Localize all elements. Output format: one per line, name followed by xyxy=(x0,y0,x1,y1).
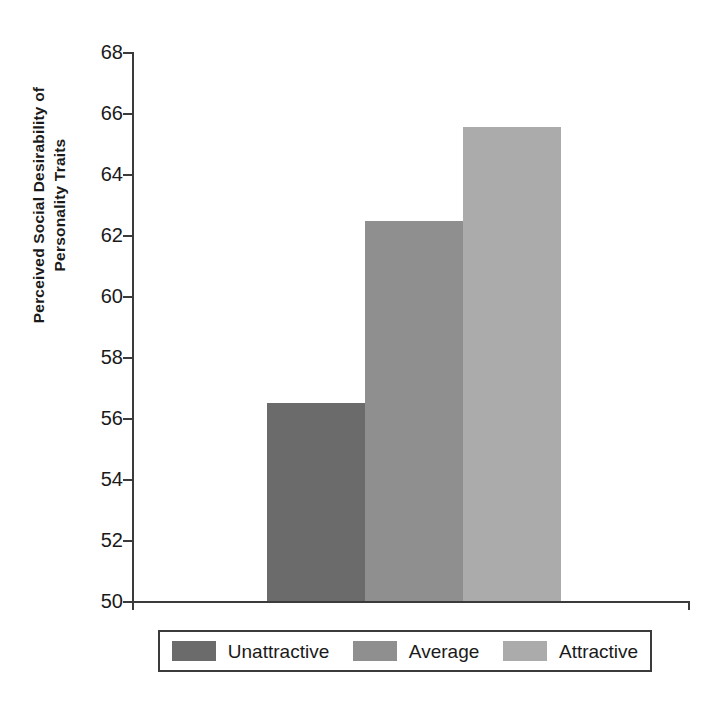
y-tick-mark xyxy=(123,601,132,603)
y-axis-label-line1: Perceived Social Desirability of xyxy=(30,87,47,323)
y-tick-mark xyxy=(123,113,132,115)
bar-attractive xyxy=(463,127,561,601)
y-tick-mark xyxy=(123,296,132,298)
y-tick-label: 60 xyxy=(101,286,123,306)
y-tick-label: 56 xyxy=(101,408,123,428)
y-tick-label: 52 xyxy=(101,530,123,550)
y-tick-mark xyxy=(123,479,132,481)
y-tick-mark xyxy=(123,174,132,176)
legend-label: Unattractive xyxy=(228,642,329,661)
plot-area: 50525456586062646668 xyxy=(132,52,690,601)
y-tick-label: 68 xyxy=(101,42,123,62)
legend-swatch-icon xyxy=(503,641,547,661)
y-tick-mark xyxy=(123,235,132,237)
legend-swatch-icon xyxy=(172,641,216,661)
chart-legend: UnattractiveAverageAttractive xyxy=(158,630,652,672)
legend-item-average: Average xyxy=(353,641,479,661)
y-tick-mark xyxy=(123,540,132,542)
y-tick-mark xyxy=(123,357,132,359)
x-axis-left-cap xyxy=(132,601,134,610)
y-tick-label: 62 xyxy=(101,225,123,245)
y-axis-label: Perceived Social Desirability of Persona… xyxy=(20,40,80,370)
legend-label: Average xyxy=(409,642,479,661)
legend-item-unattractive: Unattractive xyxy=(172,641,329,661)
x-axis-right-cap xyxy=(688,601,690,610)
x-axis-line xyxy=(132,601,690,603)
y-tick-label: 54 xyxy=(101,469,123,489)
y-tick-mark xyxy=(123,52,132,54)
bar-unattractive xyxy=(267,403,365,601)
legend-swatch-icon xyxy=(353,641,397,661)
bar-series xyxy=(132,52,690,601)
y-tick-label: 64 xyxy=(101,164,123,184)
bar-chart-figure: Perceived Social Desirability of Persona… xyxy=(0,0,715,705)
legend-item-attractive: Attractive xyxy=(503,641,638,661)
y-tick-label: 58 xyxy=(101,347,123,367)
legend-label: Attractive xyxy=(559,642,638,661)
y-tick-label: 66 xyxy=(101,103,123,123)
bar-average xyxy=(365,221,463,601)
y-tick-label: 50 xyxy=(101,591,123,611)
y-tick-mark xyxy=(123,418,132,420)
y-axis-label-line2: Personality Traits xyxy=(50,87,71,323)
